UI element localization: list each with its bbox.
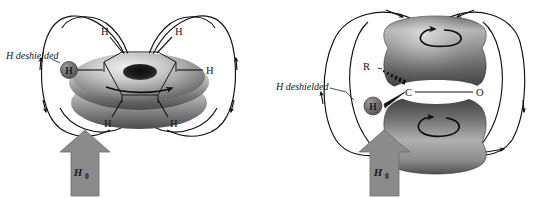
- applied-field-label-subscript: 0: [385, 172, 389, 181]
- label-h-upper-left: H: [101, 26, 109, 37]
- field-line-left-inner: [350, 22, 372, 146]
- label-h-upper-right: H: [175, 26, 183, 37]
- carbonyl-lobes-panel: C O R H H deshielded: [268, 0, 535, 198]
- applied-field-label-subscript: 0: [85, 172, 89, 181]
- benzene-diagram-svg: H H H H H H H deshielded H: [0, 0, 267, 198]
- applied-field-label: H: [73, 166, 83, 178]
- benzene-torus-panel: H H H H H H H deshielded H: [0, 0, 267, 198]
- deshielded-hydrogen-atom-label: H: [65, 66, 73, 76]
- applied-field-arrow-shape: [60, 130, 110, 196]
- label-h-deshielded: H deshielded: [5, 50, 59, 61]
- field-line-left-arrow-top: [386, 10, 403, 17]
- figure-container: H H H H H H H deshielded H: [0, 0, 535, 198]
- field-line-right-arrow-up: [236, 58, 237, 70]
- label-oxygen: O: [476, 87, 484, 98]
- applied-field-arrow: H 0: [60, 130, 110, 196]
- bond-r-hashed-guide: [378, 68, 382, 69]
- carbonyl-diagram-svg: C O R H H deshielded: [268, 0, 535, 198]
- label-substituent-r: R: [363, 61, 370, 72]
- label-h-lower-left: H: [104, 118, 112, 129]
- label-h-lower-right: H: [170, 118, 178, 129]
- label-h-deshielded: H deshielded: [275, 81, 329, 92]
- label-carbon: C: [405, 87, 412, 98]
- torus-hole: [123, 64, 157, 80]
- label-h-right: H: [206, 65, 214, 76]
- bond-h-upper-right: [157, 37, 172, 53]
- deshielded-hydrogen-atom-label: H: [369, 102, 377, 112]
- applied-field-label: H: [373, 166, 383, 178]
- field-line-left-arrow-mid: [321, 92, 323, 104]
